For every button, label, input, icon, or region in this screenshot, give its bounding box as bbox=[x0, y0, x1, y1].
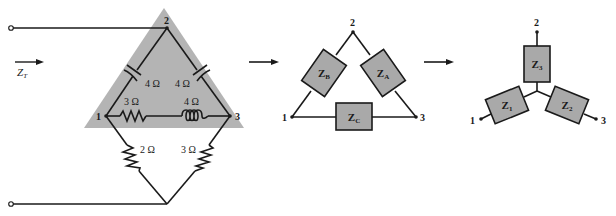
delta-node-label-3: 3 bbox=[420, 112, 425, 123]
y-network: Z3 Z1 Z2 2 1 3 bbox=[470, 17, 606, 126]
delta-node-label-2: 2 bbox=[350, 17, 355, 28]
original-network: ZT 4 Ω 4 Ω 3 Ω 4 Ω 2 Ω bbox=[9, 8, 244, 206]
resistor-3b-icon bbox=[195, 145, 213, 171]
impedance-zb: ZB bbox=[302, 49, 347, 96]
delta-network: ZB ZA ZC 2 1 3 bbox=[282, 17, 425, 130]
wire-y-center-z1 bbox=[524, 91, 537, 97]
zt-label: ZT bbox=[17, 66, 28, 80]
res13-value: 3 Ω bbox=[124, 96, 139, 107]
wire-delta-zb-1 bbox=[292, 91, 311, 117]
wire-delta-2-za bbox=[353, 32, 370, 55]
wire-delta-2-zb bbox=[336, 32, 353, 55]
node-dot-3 bbox=[228, 114, 232, 118]
ind13-value: 4 Ω bbox=[184, 96, 199, 107]
wire-res1b-bottom bbox=[139, 171, 167, 204]
delta-node-label-1: 1 bbox=[282, 112, 287, 123]
res1b-value: 2 Ω bbox=[140, 144, 155, 155]
res3b-value: 3 Ω bbox=[181, 144, 196, 155]
wire-y-z2-3 bbox=[584, 114, 596, 119]
delta-node-dot-3 bbox=[414, 115, 418, 119]
y-node-dot-1 bbox=[479, 117, 483, 121]
y-node-label-1: 1 bbox=[470, 115, 475, 126]
conversion-arrow-2-icon bbox=[424, 59, 454, 65]
wire-res3b-bottom bbox=[167, 171, 195, 204]
terminal-bottom bbox=[9, 202, 14, 207]
delta-node-dot-2 bbox=[351, 30, 355, 34]
y-node-dot-3 bbox=[594, 117, 598, 121]
resistor-1b-icon bbox=[123, 145, 140, 171]
cap23-value: 4 Ω bbox=[175, 78, 190, 89]
impedance-za: ZA bbox=[361, 49, 406, 96]
impedance-z1: Z1 bbox=[485, 86, 528, 124]
wire-y-center-z2 bbox=[537, 91, 551, 97]
y-node-label-2: 2 bbox=[534, 17, 539, 28]
delta-y-conversion-diagram: ZT 4 Ω 4 Ω 3 Ω 4 Ω 2 Ω bbox=[0, 0, 616, 216]
zt-arrow-icon bbox=[15, 59, 44, 65]
impedance-z2: Z2 bbox=[545, 86, 588, 124]
impedance-zc: ZC bbox=[336, 103, 372, 130]
y-node-dot-2 bbox=[535, 30, 539, 34]
cap12-value: 4 Ω bbox=[145, 78, 160, 89]
wire-delta-za-3 bbox=[395, 91, 416, 117]
terminal-top bbox=[9, 26, 14, 31]
y-node-label-3: 3 bbox=[601, 115, 606, 126]
conversion-arrow-icon bbox=[249, 59, 279, 65]
node-label-1: 1 bbox=[96, 111, 101, 122]
delta-node-dot-1 bbox=[290, 115, 294, 119]
delta-shade bbox=[84, 8, 244, 128]
impedance-z3: Z3 bbox=[524, 46, 550, 82]
node-label-3: 3 bbox=[235, 111, 240, 122]
node-dot-1 bbox=[104, 114, 108, 118]
node-label-2: 2 bbox=[164, 15, 169, 26]
node-dot-2 bbox=[165, 26, 169, 30]
